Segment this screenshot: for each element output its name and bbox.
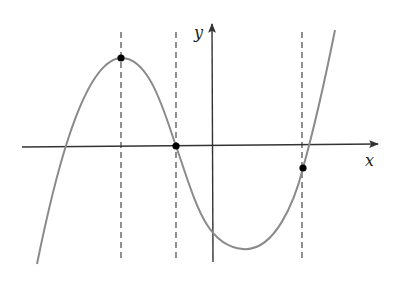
y-axis <box>212 24 213 262</box>
right-point <box>299 164 306 171</box>
local-maximum-point <box>117 54 124 61</box>
function-graph: x y <box>0 0 393 285</box>
zero-crossing-point <box>172 142 179 149</box>
y-axis-label: y <box>193 23 204 42</box>
x-axis <box>22 144 378 147</box>
x-axis-label: x <box>365 151 374 170</box>
